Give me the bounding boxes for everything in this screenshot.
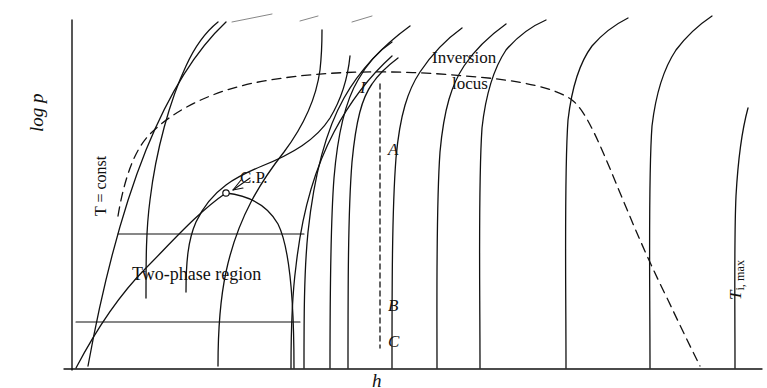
ti-max-subscript: i, max — [733, 260, 747, 291]
caption-remnant-stroke — [300, 16, 318, 21]
pressure-enthalpy-diagram: log p h T = const Two-phase region C.P. … — [0, 0, 767, 388]
isotherm-11 — [480, 20, 547, 368]
x-axis-label: h — [372, 370, 382, 388]
critical-point-label: C.P. — [240, 168, 267, 188]
isotherm-12 — [566, 18, 629, 368]
isotherm-8 — [348, 58, 398, 368]
isotherm-13 — [650, 16, 713, 368]
ti-max-symbol: T — [726, 291, 745, 300]
isotherm-curve-group — [76, 16, 748, 368]
inversion-locus-label-line2: locus — [452, 74, 488, 94]
critical-point-marker — [223, 190, 229, 196]
point-B-label: B — [388, 296, 398, 316]
point-I-label: I — [360, 78, 366, 98]
two-phase-region-label: Two-phase region — [132, 264, 261, 285]
point-C-label: C — [388, 332, 399, 352]
inversion-locus-label-line1: Inversion — [432, 48, 496, 68]
isotherm-4 — [218, 30, 322, 366]
isotherm-label: T = const — [92, 156, 110, 216]
caption-remnant-stroke — [232, 14, 272, 22]
y-axis-label: log p — [26, 93, 48, 132]
point-A-label: A — [388, 140, 398, 160]
caption-remnant-stroke — [352, 16, 372, 22]
diagram-canvas — [0, 0, 767, 388]
isotherm-14 — [735, 108, 748, 368]
ti-max-label: Ti, max — [726, 260, 748, 300]
